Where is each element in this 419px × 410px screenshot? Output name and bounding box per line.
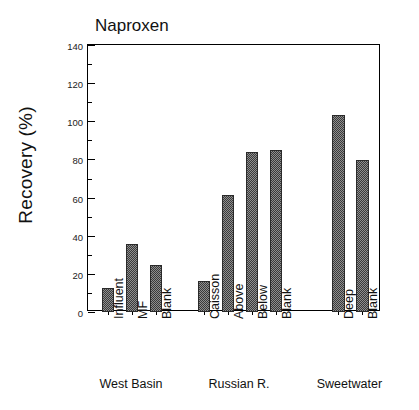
plot-area: 020406080100120140 bbox=[87, 44, 380, 311]
bar bbox=[332, 115, 345, 312]
x-category-label: MF bbox=[136, 301, 150, 319]
y-axis-label: Recovery (%) bbox=[15, 106, 37, 223]
y-tick-label: 140 bbox=[67, 41, 83, 52]
x-category-label: Blank bbox=[366, 288, 380, 319]
y-tick-label: 100 bbox=[67, 117, 83, 128]
y-tick-major: 0 bbox=[88, 312, 95, 313]
chart-figure: Recovery (%) Naproxen 020406080100120140… bbox=[0, 0, 419, 410]
x-group-label: Russian R. bbox=[208, 377, 269, 391]
x-group-label: West Basin bbox=[100, 377, 163, 391]
y-tick-label: 40 bbox=[72, 231, 83, 242]
chart-title: Naproxen bbox=[95, 16, 169, 36]
y-tick-label: 0 bbox=[78, 308, 83, 319]
y-tick-label: 120 bbox=[67, 79, 83, 90]
x-category-label: Caisson bbox=[208, 274, 222, 319]
x-category-label: Blank bbox=[160, 288, 174, 319]
x-category-label: Blank bbox=[280, 288, 294, 319]
x-category-label: Deep bbox=[342, 289, 356, 319]
y-tick-label: 60 bbox=[72, 193, 83, 204]
y-axis-label-container: Recovery (%) bbox=[6, 0, 46, 330]
x-category-label: Above bbox=[232, 284, 246, 319]
x-group-label: Sweetwater bbox=[317, 377, 382, 391]
y-tick-label: 80 bbox=[72, 155, 83, 166]
x-category-label: Influent bbox=[112, 278, 126, 319]
y-tick-label: 20 bbox=[72, 269, 83, 280]
x-category-label: Below bbox=[256, 285, 270, 319]
bar-series bbox=[88, 45, 379, 310]
